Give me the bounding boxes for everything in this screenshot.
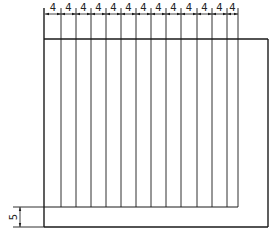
dimension-label: 4 <box>170 2 176 13</box>
dimension-label: 4 <box>80 2 86 13</box>
dimension-label: 4 <box>201 2 207 13</box>
top-dimension-chain: 4444444444444 <box>45 2 238 14</box>
dimension-label: 4 <box>186 2 192 13</box>
dimension-label: 4 <box>216 2 222 13</box>
technical-drawing: 4444444444444 5 <box>0 0 275 237</box>
outer-frame <box>44 8 268 227</box>
dimension-label: 4 <box>229 2 235 13</box>
side-dimension-label: 5 <box>8 214 19 220</box>
dimension-label: 4 <box>95 2 101 13</box>
dimension-label: 4 <box>155 2 161 13</box>
dimension-label: 4 <box>110 2 116 13</box>
dimension-label: 4 <box>50 2 56 13</box>
dimension-label: 4 <box>140 2 146 13</box>
dimension-label: 4 <box>125 2 131 13</box>
vertical-lines <box>61 8 238 207</box>
side-dimension: 5 <box>8 207 44 227</box>
dimension-label: 4 <box>65 2 71 13</box>
